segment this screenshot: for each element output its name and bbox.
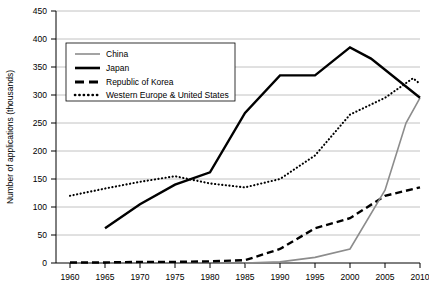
legend-label-western-europe-united-states: Western Europe & United States — [106, 90, 229, 100]
x-tick-label-1965: 1965 — [96, 272, 115, 282]
y-axis-tick-labels: 450 400 350 300 250 200 150 100 50 0 — [33, 6, 47, 268]
line-chart: 450 400 350 300 250 200 150 100 50 0 — [0, 0, 429, 296]
x-tick-label-2010: 2010 — [411, 272, 429, 282]
x-tick-label-1990: 1990 — [271, 272, 290, 282]
y-axis-ticks — [51, 11, 56, 263]
y-tick-label-50: 50 — [38, 230, 48, 240]
x-axis-tick-labels: 1960 1965 1970 1975 1980 1985 1990 1995 … — [61, 272, 429, 282]
x-tick-label-1980: 1980 — [201, 272, 220, 282]
x-axis-ticks — [70, 263, 420, 268]
x-tick-label-1995: 1995 — [306, 272, 325, 282]
x-tick-label-2000: 2000 — [341, 272, 360, 282]
chart-legend: China Japan Republic of Korea Western Eu… — [66, 43, 235, 101]
y-tick-label-0: 0 — [42, 258, 47, 268]
x-tick-label-1985: 1985 — [236, 272, 255, 282]
x-tick-label-1970: 1970 — [131, 272, 150, 282]
legend-label-japan: Japan — [106, 63, 129, 73]
y-tick-label-350: 350 — [33, 62, 47, 72]
x-tick-label-2005: 2005 — [376, 272, 395, 282]
chart-container: 450 400 350 300 250 200 150 100 50 0 — [0, 0, 429, 296]
legend-label-republic-of-korea: Republic of Korea — [106, 77, 174, 87]
y-tick-label-100: 100 — [33, 202, 47, 212]
y-tick-label-200: 200 — [33, 146, 47, 156]
y-axis-title: Number of applications (thousands) — [5, 70, 15, 204]
y-tick-label-300: 300 — [33, 90, 47, 100]
y-tick-label-450: 450 — [33, 6, 47, 16]
y-tick-label-250: 250 — [33, 118, 47, 128]
y-tick-label-400: 400 — [33, 34, 47, 44]
x-tick-label-1960: 1960 — [61, 272, 80, 282]
y-tick-label-150: 150 — [33, 174, 47, 184]
legend-label-china: China — [106, 49, 128, 59]
x-tick-label-1975: 1975 — [166, 272, 185, 282]
